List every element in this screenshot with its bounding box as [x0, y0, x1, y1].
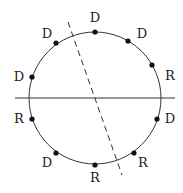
point-label: D: [14, 69, 24, 84]
point-60: R: [149, 62, 176, 83]
point-120: D: [154, 111, 175, 126]
point-240: R: [14, 111, 34, 126]
point-150: R: [131, 150, 149, 170]
point-label: D: [42, 26, 52, 41]
point-bottom: R: [90, 162, 101, 185]
point-label: R: [165, 68, 176, 83]
point-label: D: [137, 26, 147, 41]
point-label: R: [138, 155, 149, 170]
point-30: D: [125, 26, 147, 44]
point-label: R: [90, 170, 101, 185]
point-label: R: [14, 111, 25, 126]
point-label: D: [42, 155, 52, 170]
point-label: D: [90, 10, 100, 25]
point-label: D: [165, 111, 175, 126]
circle-partition-diagram: D D R D R R D R D D: [0, 0, 183, 193]
point-330: D: [42, 26, 59, 46]
point-top: D: [90, 10, 100, 35]
point-210: D: [42, 150, 59, 170]
